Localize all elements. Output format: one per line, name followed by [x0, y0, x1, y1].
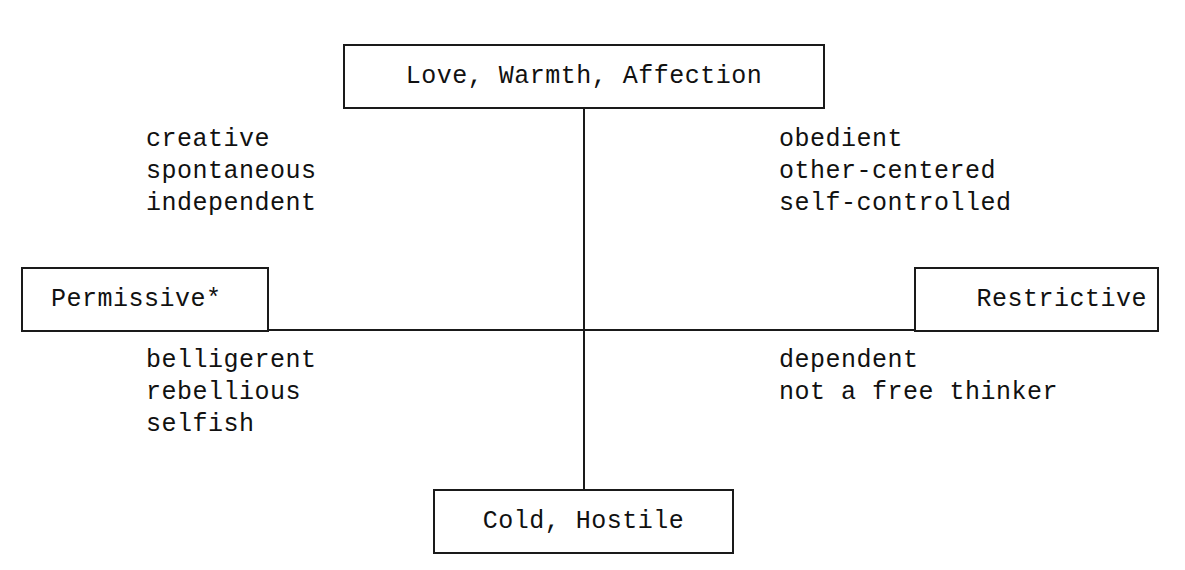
axis-label-right: Restrictive	[976, 285, 1147, 314]
trait-item: dependent	[779, 345, 1058, 377]
vertical-axis-line	[583, 107, 585, 491]
trait-item: other-centered	[779, 156, 1012, 188]
quadrant-bottom-left: belligerent rebellious selfish	[146, 345, 317, 441]
quadrant-top-left: creative spontaneous independent	[146, 124, 317, 220]
trait-item: obedient	[779, 124, 1012, 156]
trait-item: rebellious	[146, 377, 317, 409]
trait-item: creative	[146, 124, 317, 156]
axis-box-top: Love, Warmth, Affection	[343, 44, 825, 109]
axis-box-bottom: Cold, Hostile	[433, 489, 734, 554]
quadrant-bottom-right: dependent not a free thinker	[779, 345, 1058, 409]
axis-label-top: Love, Warmth, Affection	[406, 62, 763, 91]
axis-box-left: Permissive*	[21, 267, 269, 332]
trait-item: independent	[146, 188, 317, 220]
axis-label-bottom: Cold, Hostile	[483, 507, 685, 536]
trait-item: spontaneous	[146, 156, 317, 188]
trait-item: selfish	[146, 409, 317, 441]
axis-label-left: Permissive*	[51, 285, 222, 314]
quadrant-top-right: obedient other-centered self-controlled	[779, 124, 1012, 220]
trait-item: not a free thinker	[779, 377, 1058, 409]
axis-box-right: Restrictive	[914, 267, 1159, 332]
trait-item: self-controlled	[779, 188, 1012, 220]
horizontal-axis-line	[266, 329, 916, 331]
trait-item: belligerent	[146, 345, 317, 377]
